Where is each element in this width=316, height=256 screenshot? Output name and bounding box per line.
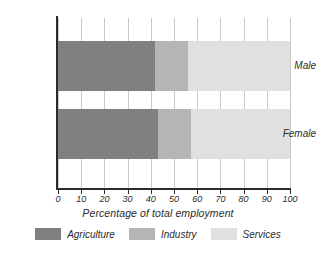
legend-item: Services (211, 228, 281, 240)
bar-segment-industry (155, 41, 187, 91)
x-tick-label: 70 (208, 194, 232, 205)
legend-label: Agriculture (67, 229, 115, 240)
category-label-female: Female (264, 128, 316, 140)
x-tick-label: 50 (162, 194, 186, 205)
category-label-male: Male (264, 60, 316, 72)
bar-row (58, 109, 290, 159)
x-axis-title: Percentage of total employment (0, 207, 316, 219)
x-tick-label: 100 (278, 194, 302, 205)
y-axis-line (56, 16, 58, 190)
bar-segment-agriculture (58, 41, 155, 91)
chart-legend: AgricultureIndustryServices (0, 228, 316, 240)
x-tick-label: 40 (139, 194, 163, 205)
x-tick-label: 60 (185, 194, 209, 205)
x-tick-label: 90 (255, 194, 279, 205)
x-tick-label: 10 (69, 194, 93, 205)
legend-swatch-industry (129, 228, 155, 240)
stacked-bar-chart: 0102030405060708090100 Male Female Perce… (0, 0, 316, 256)
legend-item: Agriculture (35, 228, 115, 240)
bar-segment-agriculture (58, 109, 158, 159)
legend-label: Industry (161, 229, 197, 240)
legend-label: Services (243, 229, 281, 240)
x-tick-label: 20 (92, 194, 116, 205)
bar-row (58, 41, 290, 91)
legend-swatch-agriculture (35, 228, 61, 240)
x-tick-label: 30 (116, 194, 140, 205)
x-tick-label: 80 (232, 194, 256, 205)
plot-area (58, 18, 290, 188)
gridline (290, 18, 291, 188)
legend-swatch-services (211, 228, 237, 240)
bar-segment-industry (158, 109, 192, 159)
legend-item: Industry (129, 228, 197, 240)
x-tick-label: 0 (46, 194, 70, 205)
